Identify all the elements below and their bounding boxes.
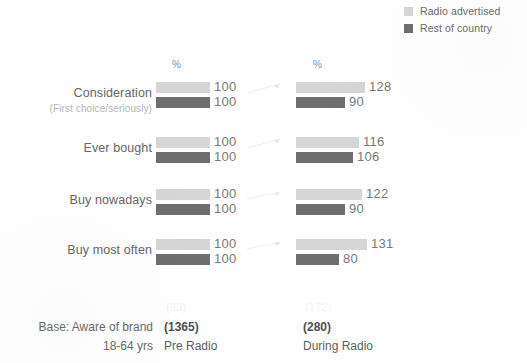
bar-rest-of-country — [296, 254, 339, 265]
chart-row-buy-most-often: Buy most often 100 100 131 80 — [0, 235, 527, 275]
row-label: Consideration — [0, 86, 152, 100]
bar-value: 100 — [214, 201, 237, 216]
column-name-left: Pre Radio — [164, 337, 217, 356]
bar-value: 116 — [363, 134, 385, 149]
bar-radio-advertised — [296, 239, 367, 250]
bar-value: 131 — [371, 236, 394, 251]
ghost-base-n-right: (172) — [305, 301, 332, 313]
bar-line-light: 131 — [296, 239, 421, 250]
bar-radio-advertised — [296, 137, 359, 148]
bar-value: 80 — [343, 251, 358, 266]
bar-line-light: 116 — [296, 137, 421, 148]
bar-line-dark: 80 — [296, 254, 421, 265]
bar-radio-advertised — [156, 239, 210, 250]
bar-group-right: 122 90 — [296, 189, 421, 223]
bar-group-left: 100 100 — [156, 82, 281, 116]
row-label: Buy nowadays — [0, 193, 152, 207]
bar-value: 100 — [214, 79, 237, 94]
bar-radio-advertised — [296, 82, 365, 93]
column-unit-header-right: % — [313, 59, 322, 70]
bar-group-right: 131 80 — [296, 239, 421, 273]
chart-row-ever-bought: Ever bought 100 100 116 106 — [0, 133, 527, 173]
bar-rest-of-country — [156, 254, 210, 265]
bar-value: 90 — [349, 94, 364, 109]
bar-line-dark: 90 — [296, 97, 421, 108]
base-line-1: Base: Aware of brand — [8, 318, 153, 337]
legend: Radio advertised Rest of country — [404, 4, 527, 38]
bar-rest-of-country — [296, 204, 345, 215]
footer-column-during-radio: (280) During Radio — [303, 318, 373, 356]
base-description: Base: Aware of brand 18-64 yrs — [8, 318, 153, 356]
bar-value: 128 — [369, 79, 392, 94]
bar-line-light: 128 — [296, 82, 421, 93]
bar-value: 100 — [214, 186, 237, 201]
legend-label: Radio advertised — [420, 5, 500, 17]
bar-radio-advertised — [156, 82, 210, 93]
bar-value: 122 — [366, 186, 389, 201]
bar-value: 100 — [214, 251, 237, 266]
legend-item-rest-of-country: Rest of country — [404, 21, 527, 35]
bar-value: 90 — [349, 201, 364, 216]
bar-radio-advertised — [156, 137, 210, 148]
base-n-right: (280) — [303, 318, 373, 337]
bar-line-dark: 100 — [156, 152, 281, 163]
legend-label: Rest of country — [420, 22, 492, 34]
bar-rest-of-country — [156, 97, 210, 108]
column-unit-header-left: % — [172, 59, 181, 70]
bar-value: 100 — [214, 149, 237, 164]
bar-value: 100 — [214, 134, 237, 149]
ghost-base-n-left: (63) — [166, 301, 186, 313]
base-n-left: (1365) — [164, 318, 217, 337]
bar-rest-of-country — [296, 152, 353, 163]
bar-value: 100 — [214, 94, 237, 109]
bar-line-light: 100 — [156, 82, 281, 93]
bar-line-light: 100 — [156, 137, 281, 148]
column-name-right: During Radio — [303, 337, 373, 356]
footer-column-pre-radio: (1365) Pre Radio — [164, 318, 217, 356]
bar-value: 100 — [214, 236, 237, 251]
bar-rest-of-country — [296, 97, 345, 108]
bar-group-left: 100 100 — [156, 137, 281, 171]
base-line-2: 18-64 yrs — [8, 337, 153, 356]
bar-line-dark: 106 — [296, 152, 421, 163]
chart-row-consideration: Consideration (First choice/seriously) 1… — [0, 78, 527, 118]
row-label: Buy most often — [0, 243, 152, 257]
bar-rest-of-country — [156, 152, 210, 163]
bar-line-light: 100 — [156, 189, 281, 200]
scan-page-tint — [0, 0, 527, 363]
legend-item-radio-advertised: Radio advertised — [404, 4, 527, 18]
bar-group-left: 100 100 — [156, 189, 281, 223]
bar-radio-advertised — [296, 189, 362, 200]
bar-radio-advertised — [156, 189, 210, 200]
row-label: Ever bought — [0, 141, 152, 155]
bar-group-right: 116 106 — [296, 137, 421, 171]
square-swatch-icon — [404, 7, 413, 16]
row-sublabel: (First choice/seriously) — [0, 103, 152, 114]
bar-line-dark: 100 — [156, 204, 281, 215]
bar-value: 106 — [357, 149, 380, 164]
chart-row-buy-nowadays: Buy nowadays 100 100 122 90 — [0, 185, 527, 225]
bar-group-right: 128 90 — [296, 82, 421, 116]
bar-line-light: 122 — [296, 189, 421, 200]
bar-rest-of-country — [156, 204, 210, 215]
bar-group-left: 100 100 — [156, 239, 281, 273]
bar-line-dark: 100 — [156, 97, 281, 108]
square-swatch-icon — [404, 24, 413, 33]
bar-line-dark: 90 — [296, 204, 421, 215]
bar-line-dark: 100 — [156, 254, 281, 265]
bar-line-light: 100 — [156, 239, 281, 250]
